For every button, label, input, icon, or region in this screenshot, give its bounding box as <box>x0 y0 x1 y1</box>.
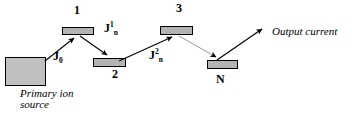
arrow-output-current <box>217 29 262 60</box>
current-label-j0: J0 <box>53 50 63 65</box>
stage-label-3: 3 <box>176 2 182 14</box>
current-label-j2n: J2n <box>149 48 163 64</box>
stage-label-1: 1 <box>74 4 80 16</box>
primary-ion-source-label: Primary ion source <box>20 88 73 110</box>
arrow-stage3-to-n <box>179 36 216 57</box>
stage-label-2: 2 <box>112 68 118 80</box>
plate-stage-1 <box>63 28 94 35</box>
arrow-j1n <box>80 36 107 55</box>
current-j1n-sub: n <box>114 28 118 37</box>
primary-ion-source-block <box>6 58 46 86</box>
stage-label-n: N <box>216 73 225 85</box>
arrow-j2n <box>119 37 172 61</box>
current-j2n-sub: n <box>159 55 163 64</box>
ion-cascade-diagram: 1 2 3 N J0 J1n J2n Output current Primar… <box>0 0 352 120</box>
output-current-label: Output current <box>272 26 337 37</box>
plate-stage-3 <box>161 27 193 35</box>
current-j0-sub: 0 <box>59 56 63 65</box>
primary-ion-source-label-line2: source <box>20 99 73 110</box>
plate-stage-n <box>208 61 238 69</box>
current-label-j1n: J1n <box>104 21 118 37</box>
